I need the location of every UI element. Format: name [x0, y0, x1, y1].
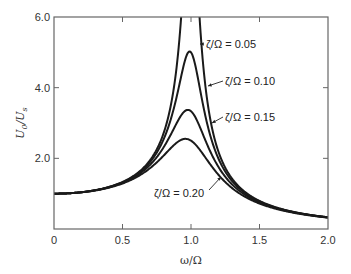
y-tick-label: 2.0 [35, 152, 50, 164]
curve-series-2 [54, 110, 328, 218]
curve-series-0 [54, 0, 328, 217]
x-tick-label: 2.0 [320, 234, 335, 246]
annotation-label: ζ/Ω = 0.15 [225, 111, 275, 123]
annotation-label: ζ/Ω = 0.05 [206, 38, 256, 50]
x-tick-label: 1.0 [183, 234, 198, 246]
arrowhead-icon [208, 83, 212, 86]
annotation-label: ζ/Ω = 0.20 [154, 187, 204, 199]
svg-text:U0/Us: U0/Us [14, 107, 29, 138]
y-label-sub2: s [20, 107, 29, 111]
y-label-sep: /U [14, 111, 27, 126]
x-tick-label: 0.5 [115, 234, 130, 246]
x-axis-label: ω/Ω [180, 254, 202, 267]
x-tick-label: 0 [51, 234, 57, 246]
curve-annotations: ζ/Ω = 0.05ζ/Ω = 0.10ζ/Ω = 0.15ζ/Ω = 0.20 [154, 38, 275, 199]
y-tick-label: 6.0 [35, 11, 50, 23]
y-tick-label: 4.0 [35, 82, 50, 94]
y-axis-label: U0/Us [14, 107, 29, 138]
resonance-chart: 00.51.01.52.02.04.06.0 ζ/Ω = 0.05ζ/Ω = 0… [0, 0, 351, 274]
annotation-label: ζ/Ω = 0.10 [225, 75, 275, 87]
curve-series-3 [54, 139, 328, 218]
x-tick-label: 1.5 [252, 234, 267, 246]
curves [54, 0, 328, 218]
